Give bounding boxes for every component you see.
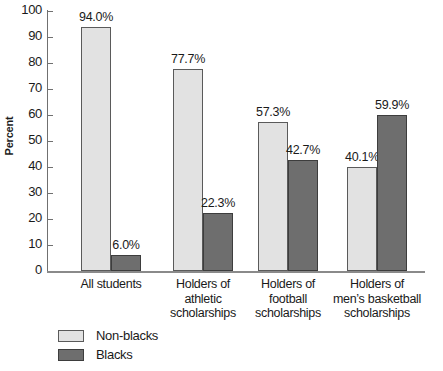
bar-blacks-1 [203, 213, 233, 271]
bar-non-blacks-1 [173, 69, 203, 271]
bar-blacks-2 [288, 160, 318, 271]
y-axis-tick-mark [48, 89, 53, 90]
y-axis-tick-label: 40 [0, 158, 42, 173]
legend-label-non-blacks: Non-blacks [96, 328, 158, 343]
x-axis-label-line: Holders of [318, 277, 436, 292]
y-axis-tick-mark [48, 115, 53, 116]
y-axis-tick-label: 30 [0, 184, 42, 199]
legend-swatch-non-blacks [58, 330, 84, 342]
legend-item-non-blacks: Non-blacks [58, 326, 158, 345]
y-axis-tick-mark [48, 141, 53, 142]
legend-label-blacks: Blacks [96, 347, 133, 362]
legend-swatch-blacks [58, 349, 84, 361]
bar-non-blacks-0 [81, 27, 111, 271]
bar-value-label: 42.7% [277, 143, 329, 157]
x-axis-label-line: scholarships [318, 306, 436, 321]
y-axis-tick-label: 80 [0, 54, 42, 69]
y-axis-tick-label: 90 [0, 28, 42, 43]
x-axis-category-3: Holders ofmen’s basketballscholarships [318, 277, 436, 321]
bar-value-label: 94.0% [70, 10, 122, 24]
y-axis-tick-label: 100 [0, 2, 42, 17]
y-axis-tick-label: 0 [0, 262, 42, 277]
bar-chart: Percent 1009080706050403020100 94.0%77.7… [0, 0, 443, 371]
y-axis-tick-mark [48, 219, 53, 220]
chart-legend: Non-blacks Blacks [58, 326, 158, 364]
x-axis-line [47, 271, 425, 273]
bar-value-label: 6.0% [100, 238, 152, 252]
bar-value-label: 59.9% [366, 98, 418, 112]
y-axis-tick-mark [48, 245, 53, 246]
y-axis-tick-mark [48, 167, 53, 168]
y-axis-tick-mark [48, 63, 53, 64]
bar-value-label: 57.3% [247, 105, 299, 119]
x-axis-label-line: men’s basketball [318, 292, 436, 307]
bar-value-label: 22.3% [192, 196, 244, 210]
y-axis-tick-mark [48, 37, 53, 38]
y-axis-tick-mark [48, 11, 53, 12]
bar-blacks-3 [377, 115, 407, 271]
bar-blacks-0 [111, 255, 141, 271]
y-axis-tick-label: 70 [0, 80, 42, 95]
bar-non-blacks-3 [347, 167, 377, 271]
y-axis-tick-label: 50 [0, 132, 42, 147]
legend-item-blacks: Blacks [58, 345, 158, 364]
y-axis-tick-label: 10 [0, 236, 42, 251]
y-axis-tick-label: 20 [0, 210, 42, 225]
bar-value-label: 77.7% [162, 52, 214, 66]
y-axis-tick-mark [48, 193, 53, 194]
y-axis-tick-label: 60 [0, 106, 42, 121]
